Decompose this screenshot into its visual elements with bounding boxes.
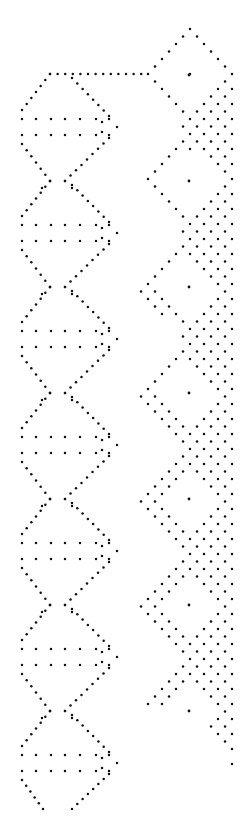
pricking-dot [71, 714, 74, 717]
pricking-dot [189, 568, 192, 571]
pricking-dot [217, 193, 220, 196]
pricking-dot [102, 566, 105, 569]
pricking-dot [182, 470, 185, 473]
pricking-dot [175, 628, 178, 631]
pricking-dot [168, 260, 171, 263]
pricking-dot [108, 137, 111, 140]
pricking-dot [76, 719, 79, 722]
pricking-dot [35, 134, 38, 137]
pricking-dot [210, 50, 213, 53]
pricking-dot [35, 664, 38, 667]
pricking-dot [69, 280, 72, 283]
pricking-dot [80, 270, 83, 273]
pricking-dot [64, 346, 67, 349]
pricking-dot [175, 523, 178, 526]
pricking-dot [175, 643, 178, 646]
pricking-dot [231, 688, 234, 691]
pricking-dot [80, 376, 83, 379]
pricking-dot [50, 542, 53, 545]
pricking-dot [217, 208, 220, 211]
pricking-dot [81, 406, 84, 409]
pricking-dot [81, 88, 84, 91]
pricking-dot [168, 515, 171, 518]
pricking-dot [154, 620, 157, 623]
pricking-dot [175, 688, 178, 691]
pricking-dot [49, 180, 52, 183]
pricking-dot [35, 224, 38, 227]
pricking-dot [71, 187, 74, 190]
pricking-dot [35, 648, 38, 651]
pricking-dot [224, 455, 227, 458]
pricking-dot [30, 367, 33, 370]
pricking-dot [224, 365, 227, 368]
pricking-dot [188, 710, 191, 713]
pricking-dot [175, 103, 178, 106]
pricking-dot [76, 82, 79, 85]
pricking-dot [79, 436, 82, 439]
pricking-dot [231, 268, 234, 271]
pricking-dot [161, 418, 164, 421]
pricking-dot [224, 65, 227, 68]
pricking-dot [203, 208, 206, 211]
pricking-dot [39, 485, 42, 488]
pricking-dot [97, 678, 100, 681]
pricking-dot [108, 648, 111, 651]
pricking-dot [175, 538, 178, 541]
pricking-dot [49, 604, 52, 607]
pricking-dot [210, 680, 213, 683]
pricking-dot [25, 209, 28, 212]
pricking-dot [203, 313, 206, 316]
pricking-dot [35, 542, 38, 545]
pricking-dot [217, 88, 220, 91]
pricking-dot [217, 568, 220, 571]
pricking-dot [168, 155, 171, 158]
pricking-dot [39, 403, 42, 406]
pricking-dot [231, 358, 234, 361]
pricking-dot [108, 346, 111, 349]
pricking-dot [189, 343, 192, 346]
pricking-dot [21, 330, 24, 333]
pricking-dot [210, 725, 213, 728]
pricking-dot [210, 215, 213, 218]
pricking-dot [95, 224, 98, 227]
pricking-dot [101, 651, 104, 654]
pricking-dot [217, 313, 220, 316]
pricking-dot [224, 290, 227, 293]
pricking-dot [189, 253, 192, 256]
pricking-dot [210, 515, 213, 518]
pricking-dot [116, 338, 119, 341]
pricking-dot [101, 767, 104, 770]
pricking-dot [21, 224, 24, 227]
pricking-dot [224, 395, 227, 398]
pricking-dot [189, 553, 192, 556]
pricking-dot [101, 555, 104, 558]
pricking-dot [79, 664, 82, 667]
pricking-dot [86, 370, 89, 373]
pricking-dot [231, 763, 234, 766]
pricking-dot [21, 648, 24, 651]
pricking-dot [168, 620, 171, 623]
pricking-dot [108, 118, 111, 121]
pricking-dot [231, 628, 234, 631]
pricking-dot [196, 470, 199, 473]
pricking-dot [30, 155, 33, 158]
pricking-dot [231, 403, 234, 406]
pricking-dot [116, 232, 119, 235]
pricking-dot [196, 635, 199, 638]
pricking-dot [101, 121, 104, 124]
pricking-dot [108, 134, 111, 137]
pricking-dot [81, 194, 84, 197]
pricking-dot [231, 598, 234, 601]
pricking-dot [64, 330, 67, 333]
pricking-dot [154, 500, 157, 503]
pricking-dot [196, 335, 199, 338]
pricking-dot [224, 215, 227, 218]
pricking-dot [21, 134, 24, 137]
pricking-dot [147, 598, 150, 601]
pricking-dot [217, 343, 220, 346]
pricking-dot [64, 498, 67, 501]
pricking-dot [231, 583, 234, 586]
pricking-dot [210, 95, 213, 98]
pricking-dot [92, 311, 95, 314]
pricking-dot [182, 650, 185, 653]
